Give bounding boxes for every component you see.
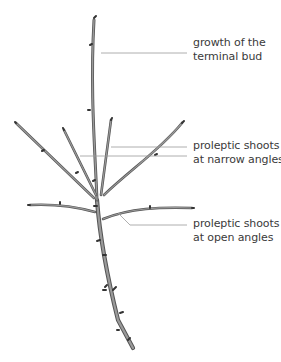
label-narrow-angles: proleptic shoots at narrow angles xyxy=(193,139,281,167)
label-line: at open angles xyxy=(193,231,279,245)
label-line: proleptic shoots xyxy=(193,139,281,153)
label-terminal-bud: growth of the terminal bud xyxy=(193,36,266,64)
label-line: terminal bud xyxy=(193,50,266,64)
leader-open xyxy=(118,213,187,225)
label-line: proleptic shoots xyxy=(193,217,279,231)
label-open-angles: proleptic shoots at open angles xyxy=(193,217,279,245)
label-line: growth of the xyxy=(193,36,266,50)
branch-drawing xyxy=(15,16,194,348)
label-line: at narrow angles xyxy=(193,153,281,167)
